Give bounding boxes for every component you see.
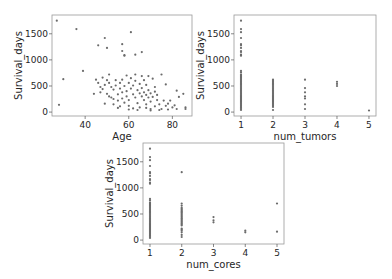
data-point: [336, 85, 338, 87]
data-point: [132, 107, 134, 109]
data-point: [160, 73, 162, 75]
data-point: [182, 93, 184, 95]
data-point: [139, 92, 141, 94]
data-point: [156, 99, 158, 101]
data-point: [150, 109, 152, 111]
data-point: [272, 106, 274, 108]
data-point: [104, 37, 106, 39]
data-point: [136, 102, 138, 104]
data-point: [240, 71, 242, 73]
data-point: [272, 109, 274, 111]
data-point: [181, 205, 183, 207]
data-point: [128, 82, 130, 84]
data-point: [136, 89, 138, 91]
data-point: [149, 165, 151, 167]
y-tick-label: 500: [122, 209, 139, 219]
data-point: [115, 84, 117, 86]
data-point: [149, 156, 151, 158]
y-tick-label: 1500: [25, 29, 48, 39]
x-axis-label: num_cores: [186, 259, 240, 271]
data-point: [139, 83, 141, 85]
scatter-points: [56, 20, 187, 112]
data-point: [110, 86, 112, 88]
y-tick-label: 500: [213, 81, 230, 91]
data-point: [244, 231, 246, 233]
data-point: [181, 224, 183, 226]
data-point: [128, 105, 130, 107]
data-point: [304, 103, 306, 105]
x-tick-label: 4: [242, 248, 248, 258]
data-point: [149, 199, 151, 201]
data-point: [121, 97, 123, 99]
data-point: [240, 31, 242, 33]
data-point: [139, 106, 141, 108]
data-point: [240, 44, 242, 46]
data-point: [104, 103, 106, 105]
data-point: [123, 102, 125, 104]
data-point: [130, 88, 132, 90]
data-point: [119, 82, 121, 84]
data-point: [110, 96, 112, 98]
data-point: [240, 55, 242, 57]
data-point: [97, 44, 99, 46]
data-point: [106, 47, 108, 49]
x-tick-label: 5: [366, 120, 372, 130]
data-point: [128, 108, 130, 110]
data-point: [117, 100, 119, 102]
data-point: [141, 87, 143, 89]
data-point: [141, 51, 143, 53]
data-point: [158, 109, 160, 111]
data-point: [117, 107, 119, 109]
subplot-num-tumors: 12345050010001500num_tumorsSurvival_days: [195, 15, 376, 143]
data-point: [212, 216, 214, 218]
data-point: [149, 175, 151, 177]
data-point: [119, 105, 121, 107]
y-axis-label: Survival_days: [104, 159, 116, 228]
data-point: [121, 50, 123, 52]
data-point: [126, 74, 128, 76]
data-point: [336, 81, 338, 83]
data-point: [99, 91, 101, 93]
data-point: [121, 79, 123, 81]
x-tick-label: 3: [302, 120, 308, 130]
data-point: [112, 103, 114, 105]
data-point: [150, 101, 152, 103]
data-point: [115, 79, 117, 81]
data-point: [97, 82, 99, 84]
y-tick-label: 0: [42, 107, 48, 117]
data-point: [147, 89, 149, 91]
x-tick-label: 3: [211, 248, 217, 258]
x-tick-label: 5: [274, 248, 280, 258]
data-point: [304, 97, 306, 99]
y-tick-label: 1000: [25, 55, 48, 65]
data-point: [149, 183, 151, 185]
data-point: [134, 73, 136, 75]
y-tick-label: 1500: [116, 157, 139, 167]
data-point: [240, 47, 242, 49]
data-point: [165, 105, 167, 107]
data-point: [167, 103, 169, 105]
data-point: [368, 109, 370, 111]
data-point: [145, 103, 147, 105]
data-point: [102, 88, 104, 90]
data-point: [145, 107, 147, 109]
data-point: [56, 20, 58, 22]
subplot-age: 406080050010001500AgeSurvival_days: [13, 15, 192, 142]
x-tick-label: 1: [238, 120, 244, 130]
data-point: [165, 83, 167, 85]
data-point: [82, 70, 84, 72]
data-point: [154, 91, 156, 93]
x-tick-label: 4: [334, 120, 340, 130]
data-point: [184, 106, 186, 108]
data-point: [150, 92, 152, 94]
data-point: [123, 85, 125, 87]
data-point: [147, 75, 149, 77]
data-point: [304, 87, 306, 89]
data-point: [181, 171, 183, 173]
data-point: [136, 109, 138, 111]
data-point: [106, 93, 108, 95]
data-point: [130, 77, 132, 79]
data-point: [158, 103, 160, 105]
data-point: [276, 231, 278, 233]
data-point: [304, 91, 306, 93]
